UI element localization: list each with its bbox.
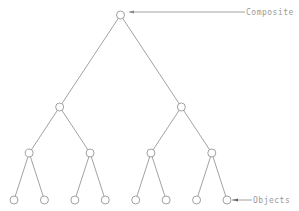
- tree-edge: [60, 107, 90, 153]
- tree-edges: [14, 15, 227, 200]
- tree-edge: [197, 153, 212, 200]
- leaf-object-node: [40, 196, 48, 204]
- objects-pointer-arrowhead: [232, 199, 238, 202]
- leaf-object-node: [223, 196, 231, 204]
- composite-node: [147, 149, 155, 157]
- composite-tree-diagram: Composite Objects: [0, 0, 299, 211]
- composite-node: [208, 149, 216, 157]
- leaf-object-node: [162, 196, 170, 204]
- composite-node: [177, 103, 185, 111]
- tree-edge: [29, 153, 44, 200]
- tree-edge: [75, 153, 90, 200]
- tree-edge: [29, 107, 59, 153]
- tree-edge: [60, 15, 121, 107]
- tree-edge: [151, 107, 181, 153]
- composite-node: [25, 149, 33, 157]
- composite-label: Composite: [246, 8, 294, 17]
- tree-edge: [136, 153, 151, 200]
- leaf-object-node: [10, 196, 18, 204]
- annotations: Composite Objects: [128, 8, 294, 205]
- tree-edge: [181, 107, 211, 153]
- leaf-object-node: [132, 196, 140, 204]
- tree-edge: [90, 153, 105, 200]
- leaf-object-node: [101, 196, 109, 204]
- composite-node: [56, 103, 64, 111]
- composite-node: [86, 149, 94, 157]
- tree-edge: [151, 153, 166, 200]
- tree-edge: [121, 15, 182, 107]
- objects-label: Objects: [253, 196, 290, 205]
- composite-pointer-arrowhead: [128, 11, 134, 14]
- leaf-object-node: [71, 196, 79, 204]
- tree-edge: [212, 153, 227, 200]
- tree-edge: [14, 153, 29, 200]
- tree-nodes: [10, 11, 231, 204]
- leaf-object-node: [193, 196, 201, 204]
- composite-root-node: [117, 11, 125, 19]
